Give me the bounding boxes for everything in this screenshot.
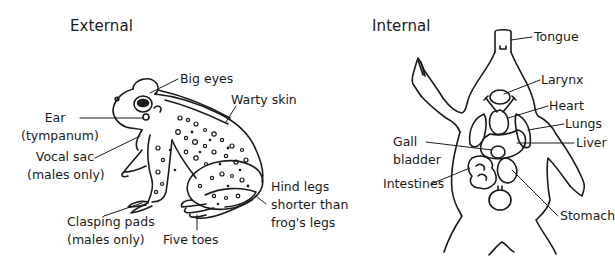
label-big-eyes: Big eyes [180, 70, 233, 88]
label-stomach: Stomach [560, 207, 615, 225]
panel-title-internal: Internal [372, 17, 431, 35]
label-vocal-sac: Vocal sac (males only) [27, 148, 103, 184]
label-lungs: Lungs [565, 115, 602, 133]
label-gall-bladder: Gall bladder [393, 133, 441, 169]
label-five-toes: Five toes [163, 231, 219, 249]
panel-title-external: External [70, 17, 133, 35]
label-intestines: Intestines [383, 175, 444, 193]
label-liver: Liver [576, 134, 607, 152]
label-hind-legs: Hind legs shorter than frog's legs [271, 178, 348, 232]
label-clasping-pads: Clasping pads (males only) [67, 213, 155, 249]
label-warty-skin: Warty skin [231, 91, 297, 109]
label-larynx: Larynx [541, 71, 583, 89]
internal-leader-lines [426, 37, 574, 216]
label-tongue: Tongue [534, 28, 579, 46]
label-ear-tympanum: Ear (tympanum) [21, 109, 89, 145]
label-heart: Heart [549, 97, 584, 115]
